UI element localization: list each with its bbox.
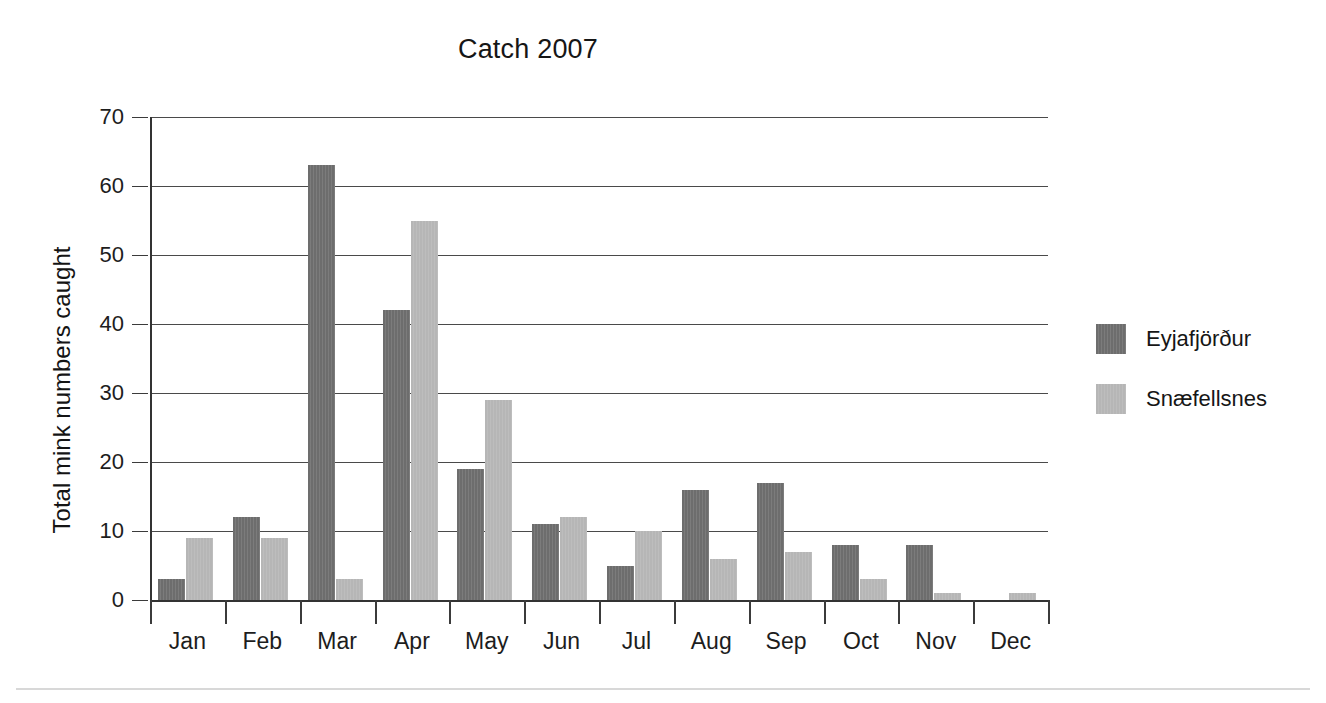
bar-jul-eyjafjordur (607, 566, 634, 601)
plot-area: 010203040506070 (150, 117, 1048, 600)
y-tick-mark-10 (132, 531, 148, 532)
x-tick-mark-mar (300, 600, 302, 624)
y-tick-label-0: 0 (112, 587, 124, 613)
legend-swatch-eyjafjordur (1096, 324, 1126, 354)
y-axis-title-text: Total mink numbers caught (48, 247, 76, 534)
x-tick-label-sep: Sep (766, 628, 807, 655)
x-tick-mark-aug (674, 600, 676, 624)
bar-apr-eyjafjordur (383, 310, 410, 600)
bar-mar-eyjafjordur (308, 165, 335, 600)
y-tick-label-20: 20 (100, 449, 124, 475)
y-tick-mark-0 (132, 600, 148, 601)
x-tick-mark-feb (225, 600, 227, 624)
bar-group-may (449, 117, 524, 600)
bar-feb-snaefellsnes (261, 538, 288, 600)
bar-jun-snaefellsnes (560, 517, 587, 600)
y-tick-mark-30 (132, 393, 148, 394)
y-tick-mark-50 (132, 255, 148, 256)
x-tick-label-feb: Feb (242, 628, 282, 655)
bar-group-apr (375, 117, 450, 600)
x-tick-label-dec: Dec (990, 628, 1031, 655)
bar-group-dec (973, 117, 1048, 600)
bar-nov-snaefellsnes (934, 593, 961, 600)
bar-oct-eyjafjordur (832, 545, 859, 600)
bar-group-jun (524, 117, 599, 600)
bar-sep-snaefellsnes (785, 552, 812, 600)
bar-group-aug (674, 117, 749, 600)
bar-group-sep (749, 117, 824, 600)
legend-item-snaefellsnes: Snæfellsnes (1096, 382, 1267, 416)
bar-group-oct (824, 117, 899, 600)
y-tick-mark-40 (132, 324, 148, 325)
y-axis-title: Total mink numbers caught (44, 190, 80, 590)
x-tick-label-aug: Aug (691, 628, 732, 655)
x-tick-mark-sep (749, 600, 751, 624)
x-tick-label-may: May (465, 628, 508, 655)
y-tick-mark-60 (132, 186, 148, 187)
bar-jan-eyjafjordur (158, 579, 185, 600)
bar-jun-eyjafjordur (532, 524, 559, 600)
bar-group-mar (300, 117, 375, 600)
x-tick-mark-dec (973, 600, 975, 624)
bar-apr-snaefellsnes (411, 221, 438, 601)
bar-feb-eyjafjordur (233, 517, 260, 600)
x-tick-mark-jan (150, 600, 152, 624)
x-tick-label-jun: Jun (543, 628, 580, 655)
y-tick-mark-70 (132, 117, 148, 118)
y-tick-label-10: 10 (100, 518, 124, 544)
bar-group-feb (225, 117, 300, 600)
footer-divider (16, 688, 1310, 690)
x-tick-mark-nov (898, 600, 900, 624)
y-tick-label-40: 40 (100, 311, 124, 337)
x-tick-mark-jun (524, 600, 526, 624)
x-tick-label-nov: Nov (915, 628, 956, 655)
x-tick-label-jan: Jan (169, 628, 206, 655)
chart-legend: EyjafjörðurSnæfellsnes (1096, 322, 1267, 442)
bar-group-nov (898, 117, 973, 600)
bar-aug-snaefellsnes (710, 559, 737, 600)
figure-catch-2007: Catch 2007 Total mink numbers caught 010… (0, 0, 1326, 703)
bar-mar-snaefellsnes (336, 579, 363, 600)
bar-group-jul (599, 117, 674, 600)
bar-oct-snaefellsnes (860, 579, 887, 600)
chart-title: Catch 2007 (0, 34, 1326, 65)
y-tick-label-30: 30 (100, 380, 124, 406)
bar-jan-snaefellsnes (186, 538, 213, 600)
bar-nov-eyjafjordur (906, 545, 933, 600)
bar-aug-eyjafjordur (682, 490, 709, 600)
y-tick-label-60: 60 (100, 173, 124, 199)
legend-swatch-snaefellsnes (1096, 384, 1126, 414)
x-tick-mark-end (1048, 600, 1050, 624)
bar-may-snaefellsnes (485, 400, 512, 600)
bar-series-container (150, 117, 1048, 600)
x-tick-mark-oct (824, 600, 826, 624)
y-tick-mark-20 (132, 462, 148, 463)
x-tick-label-oct: Oct (843, 628, 879, 655)
y-tick-label-50: 50 (100, 242, 124, 268)
x-tick-mark-jul (599, 600, 601, 624)
legend-label-eyjafjordur: Eyjafjörður (1146, 326, 1251, 352)
x-tick-mark-apr (375, 600, 377, 624)
bar-may-eyjafjordur (457, 469, 484, 600)
y-axis-line (150, 117, 152, 601)
legend-item-eyjafjordur: Eyjafjörður (1096, 322, 1267, 356)
x-tick-label-apr: Apr (394, 628, 430, 655)
x-tick-label-mar: Mar (317, 628, 357, 655)
legend-label-snaefellsnes: Snæfellsnes (1146, 386, 1267, 412)
bar-sep-eyjafjordur (757, 483, 784, 600)
x-tick-label-jul: Jul (622, 628, 651, 655)
bar-jul-snaefellsnes (635, 531, 662, 600)
y-tick-label-70: 70 (100, 104, 124, 130)
bar-group-jan (150, 117, 225, 600)
x-tick-mark-may (449, 600, 451, 624)
bar-dec-snaefellsnes (1009, 593, 1036, 600)
